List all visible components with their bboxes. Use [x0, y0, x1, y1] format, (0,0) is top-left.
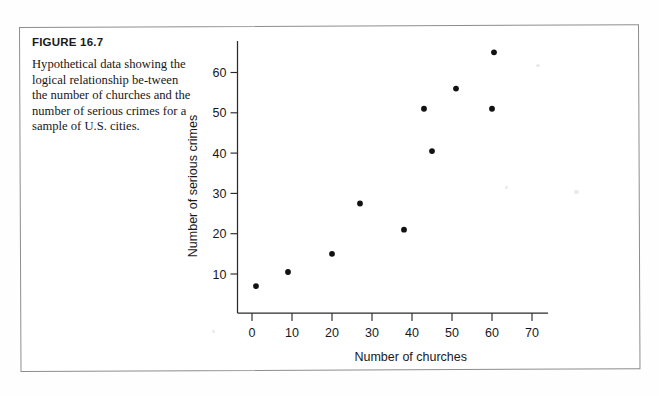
figure-number-label: FIGURE 16.7: [32, 36, 202, 48]
figure-root: FIGURE 16.7 Hypothetical data showing th…: [0, 0, 659, 396]
figure-caption-block: FIGURE 16.7 Hypothetical data showing th…: [32, 36, 202, 135]
figure-caption-text: Hypothetical data showing the logical re…: [32, 57, 195, 135]
